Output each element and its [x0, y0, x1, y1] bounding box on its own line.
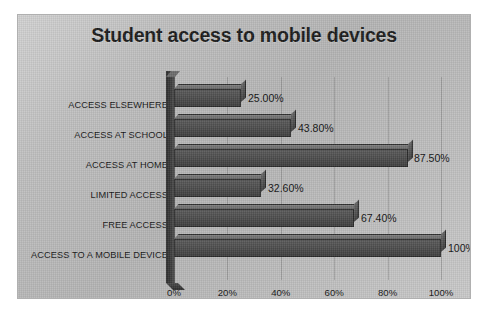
bar-side-face	[241, 79, 246, 102]
x-tick-label-2: 40%	[271, 287, 290, 298]
bar-access-at-home[interactable]	[174, 149, 408, 167]
bar-side-face	[261, 169, 266, 192]
bar-free-access[interactable]	[174, 209, 354, 227]
category-label-4: FREE ACCESS	[22, 220, 168, 230]
value-label-3: 32.60%	[268, 182, 304, 194]
value-label-0: 25.00%	[248, 92, 284, 104]
x-tick-label-0: 0%	[167, 287, 181, 298]
bar-front-face	[174, 209, 354, 227]
x-tick-label-5: 100%	[429, 287, 454, 298]
bar-side-face	[408, 139, 413, 162]
bar-side-face	[291, 109, 296, 132]
bar-front-face	[174, 119, 291, 137]
value-label-5: 100%	[448, 242, 470, 254]
bar-limited-access[interactable]	[174, 179, 261, 197]
category-label-2: ACCESS AT HOME	[22, 160, 168, 170]
bar-access-to-a-mobile-device[interactable]	[174, 239, 441, 257]
bar-front-face	[174, 149, 408, 167]
value-label-4: 67.40%	[361, 212, 397, 224]
x-tick-label-1: 20%	[218, 287, 237, 298]
value-label-1: 43.80%	[298, 122, 334, 134]
bar-front-face	[174, 89, 241, 107]
value-label-2: 87.50%	[414, 152, 450, 164]
x-axis: 0% 20% 40% 60% 80% 100%	[174, 287, 441, 298]
bar-access-elsewhere[interactable]	[174, 89, 241, 107]
bar-access-at-school[interactable]	[174, 119, 291, 137]
category-label-0: ACCESS ELSEWHERE	[22, 100, 168, 110]
bar-front-face	[174, 239, 441, 257]
chart-container: Student access to mobile devices ACCESS …	[18, 15, 470, 298]
plot-area: 25.00% 43.80% 87.50% 32.60	[174, 77, 441, 280]
bar-side-face	[441, 229, 446, 252]
chart-title: Student access to mobile devices	[18, 24, 470, 47]
bar-front-face	[174, 179, 261, 197]
category-label-5: ACCESS TO A MOBILE DEVICE	[22, 250, 168, 260]
category-label-3: LIMITED ACCESS	[22, 190, 168, 200]
x-tick-label-3: 60%	[325, 287, 344, 298]
x-tick-label-4: 80%	[378, 287, 397, 298]
bar-side-face	[354, 199, 359, 222]
category-label-1: ACCESS AT SCHOOL	[22, 130, 168, 140]
